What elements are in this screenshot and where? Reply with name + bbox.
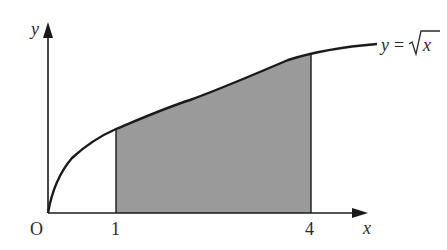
y-axis-label: y [29, 19, 39, 39]
curve-label-lhs: y [379, 35, 389, 55]
origin-label: O [30, 219, 43, 239]
curve-label-eq: = [394, 35, 404, 55]
diagram-svg: y O 1 4 x y = x [0, 0, 447, 250]
x-axis-arrow-icon [352, 208, 368, 218]
sqrt-area-diagram: y O 1 4 x y = x [0, 0, 447, 250]
x-axis-label: x [362, 218, 371, 238]
curve-label: y = x [379, 31, 440, 55]
tick-label-1: 1 [111, 219, 120, 239]
shaded-area [116, 53, 311, 213]
curve-label-arg: x [422, 35, 431, 55]
y-axis-arrow-icon [43, 22, 53, 38]
tick-label-4: 4 [305, 219, 314, 239]
